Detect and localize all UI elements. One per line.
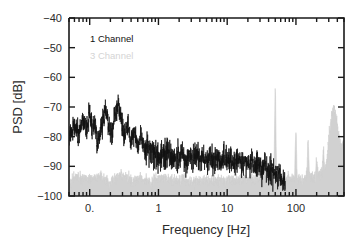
psd-chart-svg: −40−50−60−70−80−90−100 0.110100 Frequenc… (0, 0, 362, 244)
x-axis-title: Frequency [Hz] (162, 222, 250, 237)
x-tick-label: 10 (221, 202, 233, 214)
psd-figure: −40−50−60−70−80−90−100 0.110100 Frequenc… (0, 0, 362, 244)
y-tick-label: −50 (43, 42, 62, 54)
y-tick-label: −60 (43, 71, 62, 83)
y-tick-label: −90 (43, 160, 62, 172)
y-axis-title: PSD [dB] (10, 80, 25, 133)
legend-entry-1-channel: 1 Channel (90, 33, 133, 44)
chart-background (0, 0, 362, 244)
x-tick-label: 1 (155, 202, 161, 214)
y-tick-label: −70 (43, 101, 62, 113)
y-tick-label: −80 (43, 131, 62, 143)
legend-entry-3-channel: 3 Channel (90, 50, 133, 61)
y-tick-label: −40 (43, 12, 62, 24)
y-tick-label: −100 (37, 190, 62, 202)
x-tick-label: 100 (287, 202, 305, 214)
x-tick-label: 0. (85, 202, 94, 214)
